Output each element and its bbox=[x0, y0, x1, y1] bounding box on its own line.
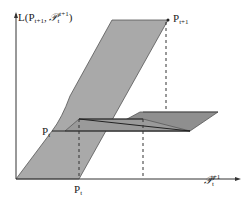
upper-surface bbox=[16, 20, 168, 179]
point-top-label: Pt+1 bbox=[173, 12, 189, 26]
point-left-label: Pt bbox=[42, 125, 50, 139]
loss-surface-diagram: L(Pt+1, 𝒫tt+1) Pt+1 Pt Pt 𝒫tt+1 bbox=[0, 0, 244, 202]
x-axis-arrow-icon bbox=[235, 177, 241, 181]
y-axis-label: L(Pt+1, 𝒫tt+1) bbox=[18, 10, 73, 25]
point-top-marker bbox=[167, 19, 170, 22]
x-axis-label: 𝒫tt+1 bbox=[204, 173, 221, 188]
point-bottom-label: Pt bbox=[74, 183, 82, 197]
